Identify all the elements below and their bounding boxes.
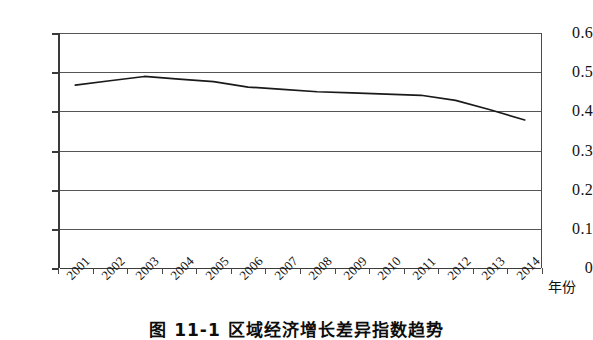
x-tick-mark — [369, 268, 370, 274]
gridline — [60, 33, 541, 34]
x-axis-title: 年份 — [548, 280, 576, 294]
y-tick-label: 0 — [547, 260, 593, 276]
x-tick-mark — [300, 268, 301, 274]
y-tick-label: 0.6 — [547, 25, 593, 41]
x-tick-mark — [127, 268, 128, 274]
gridline — [60, 151, 541, 152]
y-tick-label: 0.4 — [547, 103, 593, 119]
gridline — [60, 72, 541, 73]
gridline — [60, 190, 541, 191]
x-tick-mark — [507, 268, 508, 274]
x-tick-mark — [438, 268, 439, 274]
figure-container: 00.10.20.30.40.50.6 20012002200320042005… — [0, 0, 593, 340]
x-tick-mark — [404, 268, 405, 274]
x-tick-mark — [473, 268, 474, 274]
x-tick-mark — [231, 268, 232, 274]
y-tick-label: 0.1 — [547, 221, 593, 237]
y-tick-label: 0.3 — [547, 143, 593, 159]
x-tick-mark — [162, 268, 163, 274]
gridline — [60, 229, 541, 230]
gridline — [60, 111, 541, 112]
plot-area — [58, 33, 542, 268]
x-tick-mark — [58, 268, 59, 274]
x-tick-mark — [542, 268, 543, 274]
y-tick-label: 0.2 — [547, 182, 593, 198]
x-tick-mark — [93, 268, 94, 274]
x-tick-mark — [196, 268, 197, 274]
y-tick-label: 0.5 — [547, 64, 593, 80]
figure-caption: 图 11-1 区域经济增长差异指数趋势 — [0, 320, 593, 340]
x-tick-mark — [335, 268, 336, 274]
x-tick-mark — [265, 268, 266, 274]
